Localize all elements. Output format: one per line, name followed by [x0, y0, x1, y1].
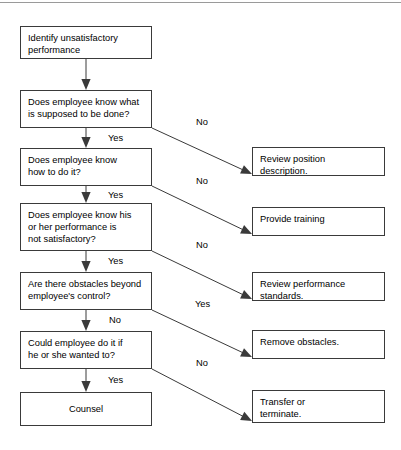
- arrowhead-q4-to-q5: [81, 320, 90, 331]
- connector-q5-to-r5: [152, 369, 244, 417]
- flowchart-node-r1: Review position description.: [252, 147, 385, 176]
- flowchart-node-q1: Does employee know what is supposed to b…: [20, 90, 152, 128]
- edge-label-q4-down: No: [109, 315, 121, 325]
- flowchart-node-q2: Does employee know how to do it?: [20, 148, 152, 186]
- edge-label-q2-down: Yes: [108, 190, 123, 200]
- arrowhead-q1-to-q2: [81, 137, 90, 148]
- flowchart-node-r5: Transfer or terminate.: [252, 390, 385, 423]
- flowchart-canvas: Identify unsatisfactory performanceDoes …: [0, 0, 401, 450]
- connector-q2-to-r2: [152, 186, 244, 230]
- edge-label-q5-down: Yes: [108, 375, 123, 385]
- arrowhead-q5-to-counsel: [81, 381, 90, 392]
- flowchart-node-q3: Does employee know his or her performanc…: [20, 203, 152, 251]
- edge-label-q1-down: Yes: [108, 133, 123, 143]
- edge-label-q1-diag: No: [196, 117, 208, 127]
- edge-label-q4-diag: Yes: [195, 299, 210, 309]
- edge-label-q3-down: Yes: [108, 256, 123, 266]
- connector-q4-to-r4: [152, 310, 244, 353]
- flowchart-node-q4: Are there obstacles beyond employee's co…: [20, 272, 152, 310]
- flowchart-node-r2: Provide training: [252, 207, 385, 236]
- arrowhead-q2-to-q3: [81, 192, 90, 203]
- edge-label-q5-diag: No: [196, 358, 208, 368]
- flowchart-node-r4: Remove obstacles.: [252, 330, 385, 359]
- arrowhead-q3-to-q4: [81, 261, 90, 272]
- arrowhead-q5-to-r5: [240, 412, 252, 421]
- connector-q1-to-r1: [152, 128, 244, 170]
- edge-label-q3-diag: No: [196, 240, 208, 250]
- flowchart-node-q5: Could employee do it if he or she wanted…: [20, 331, 152, 369]
- flowchart-node-start: Identify unsatisfactory performance: [20, 26, 152, 59]
- flowchart-node-counsel: Counsel: [20, 392, 152, 426]
- arrowhead-start-to-q1: [81, 79, 90, 90]
- edge-label-q2-diag: No: [196, 176, 208, 186]
- flowchart-node-r3: Review performance standards.: [252, 272, 385, 301]
- connector-q3-to-r3: [152, 251, 244, 295]
